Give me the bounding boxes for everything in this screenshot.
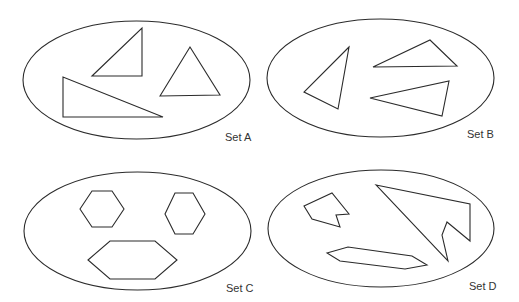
set-b-label: Set B bbox=[467, 128, 494, 140]
set-c: Set C bbox=[24, 172, 254, 294]
set-d-shape-1 bbox=[304, 193, 349, 227]
set-a: Set A bbox=[23, 21, 252, 143]
set-a-ellipse bbox=[23, 21, 250, 139]
set-c-shape-2 bbox=[165, 193, 205, 234]
set-c-shape-3 bbox=[88, 241, 177, 279]
set-c-label: Set C bbox=[226, 282, 254, 294]
set-d-ellipse bbox=[268, 170, 494, 287]
set-a-shape-3 bbox=[63, 77, 163, 117]
set-b: Set B bbox=[267, 19, 494, 140]
set-d: Set D bbox=[268, 170, 497, 292]
set-b-shape-1 bbox=[304, 47, 349, 109]
set-b-shape-2 bbox=[373, 40, 457, 67]
set-b-shape-3 bbox=[370, 81, 449, 116]
set-c-shape-1 bbox=[80, 191, 124, 227]
set-d-shape-2 bbox=[376, 185, 470, 261]
set-a-shape-2 bbox=[160, 47, 220, 96]
set-d-shape-3 bbox=[327, 247, 427, 269]
set-d-label: Set D bbox=[469, 280, 497, 292]
set-a-label: Set A bbox=[225, 131, 252, 143]
set-b-ellipse bbox=[267, 19, 494, 137]
set-a-shape-1 bbox=[92, 28, 142, 76]
sets-diagram: Set A Set B Set C Set D bbox=[0, 0, 519, 302]
set-c-ellipse bbox=[24, 172, 251, 290]
